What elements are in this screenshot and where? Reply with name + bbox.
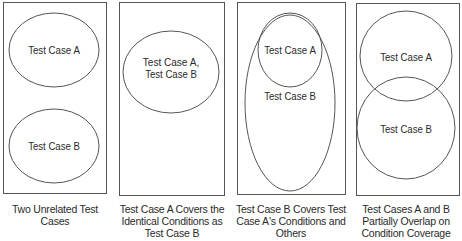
panel-frame bbox=[357, 4, 460, 196]
caption-line: Test Case B bbox=[113, 227, 231, 239]
panel-frame bbox=[4, 3, 107, 194]
shape-label: Test Case A bbox=[28, 44, 80, 56]
caption-line: Others bbox=[231, 227, 351, 239]
panel-1: Test Case ATest Case B bbox=[4, 3, 107, 194]
shape-label: Test Case B bbox=[380, 123, 432, 135]
panel-caption: Test Case B Covers TestCase A's Conditio… bbox=[231, 203, 351, 239]
panel-caption: Test Case A Covers theIdentical Conditio… bbox=[113, 203, 231, 239]
shape-label: Test Case A bbox=[380, 51, 432, 63]
shape-label: Test Case B bbox=[264, 90, 316, 102]
shape-label: Test Case A, bbox=[143, 56, 199, 68]
caption-line: Partially Overlap on bbox=[350, 215, 462, 227]
caption-line: Case A's Conditions and bbox=[231, 215, 351, 227]
caption-line: Two Unrelated Test bbox=[0, 203, 110, 215]
caption-line: Test Case B Covers Test bbox=[231, 203, 351, 215]
panel-3: Test Case ATest Case B bbox=[238, 3, 346, 195]
caption-line: Cases bbox=[0, 215, 110, 227]
panel-caption: Two Unrelated TestCases bbox=[0, 203, 110, 227]
shape-label: Test Case A bbox=[264, 44, 316, 56]
panel-2: Test Case A,Test Case B bbox=[120, 3, 225, 196]
shape-label: Test Case B bbox=[145, 68, 197, 80]
caption-line: Test Cases A and B bbox=[350, 203, 462, 215]
caption-line: Identical Conditions as bbox=[113, 215, 231, 227]
caption-line: Condition Coverage bbox=[350, 227, 462, 239]
panel-caption: Test Cases A and BPartially Overlap onCo… bbox=[350, 203, 462, 239]
shape-label: Test Case B bbox=[28, 140, 80, 152]
caption-line: Test Case A Covers the bbox=[113, 203, 231, 215]
panel-4: Test Case ATest Case B bbox=[357, 4, 460, 196]
